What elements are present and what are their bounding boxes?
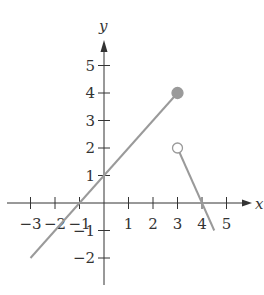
y-axis-arrow-icon xyxy=(101,40,108,52)
y-tick-label: 4 xyxy=(85,84,95,102)
x-tick-label: 1 xyxy=(124,215,134,233)
x-tick-label: 2 xyxy=(148,215,158,233)
data-series xyxy=(31,93,215,258)
x-axis-label: x xyxy=(255,195,264,213)
open-point xyxy=(173,143,183,153)
y-tick-label: 1 xyxy=(85,167,95,185)
y-tick-label: −2 xyxy=(73,249,95,267)
y-tick-label: 5 xyxy=(85,57,95,75)
closed-point xyxy=(172,88,183,99)
y-tick-label: −1 xyxy=(73,222,95,240)
x-tick-label: −3 xyxy=(19,215,41,233)
axes xyxy=(7,48,246,285)
piecewise-function-graph: x y −3−2−112345 −2−112345 xyxy=(0,0,264,295)
x-tick-label: 5 xyxy=(222,215,232,233)
series-line xyxy=(178,148,215,231)
x-axis-arrow-icon xyxy=(242,200,252,207)
x-tick-label: 3 xyxy=(173,215,183,233)
y-tick-label: 2 xyxy=(85,139,95,157)
x-tick-label: 4 xyxy=(197,215,207,233)
x-ticks: −3−2−112345 xyxy=(19,197,231,233)
y-axis-label: y xyxy=(98,17,108,35)
endpoints xyxy=(172,88,183,154)
y-tick-label: 3 xyxy=(85,112,95,130)
